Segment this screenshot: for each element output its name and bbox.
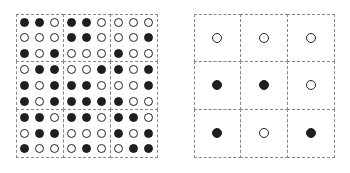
empty-circle-icon [67, 49, 76, 58]
filled-circle-icon [82, 113, 91, 122]
empty-circle-icon [306, 33, 316, 43]
filled-circle-icon [20, 81, 29, 90]
grid-block [110, 61, 158, 110]
filled-circle-icon [35, 113, 44, 122]
empty-circle-icon [129, 33, 138, 42]
filled-circle-icon [144, 65, 153, 74]
filled-circle-icon [97, 65, 106, 74]
filled-circle-icon [212, 80, 222, 90]
empty-circle-icon [129, 97, 138, 106]
filled-circle-icon [82, 144, 91, 153]
empty-circle-icon [20, 129, 29, 138]
empty-circle-icon [114, 144, 123, 153]
grid-block [16, 109, 64, 158]
empty-circle-icon [97, 49, 106, 58]
filled-circle-icon [67, 33, 76, 42]
filled-circle-icon [20, 144, 29, 153]
empty-circle-icon [67, 144, 76, 153]
filled-circle-icon [20, 113, 29, 122]
empty-circle-icon [20, 65, 29, 74]
empty-circle-icon [50, 18, 59, 27]
empty-circle-icon [50, 113, 59, 122]
filled-circle-icon [50, 81, 59, 90]
filled-circle-icon [50, 129, 59, 138]
grid-block [287, 109, 335, 158]
filled-circle-icon [114, 97, 123, 106]
filled-circle-icon [20, 18, 29, 27]
empty-circle-icon [306, 80, 316, 90]
empty-circle-icon [144, 49, 153, 58]
empty-circle-icon [114, 81, 123, 90]
grid-block [240, 109, 288, 158]
grid-block [110, 109, 158, 158]
filled-circle-icon [82, 18, 91, 27]
empty-circle-icon [67, 129, 76, 138]
grid-block [287, 61, 335, 110]
filled-circle-icon [20, 97, 29, 106]
filled-circle-icon [97, 97, 106, 106]
grid-block [63, 61, 111, 110]
empty-circle-icon [129, 129, 138, 138]
empty-circle-icon [50, 144, 59, 153]
filled-circle-icon [50, 65, 59, 74]
empty-circle-icon [129, 65, 138, 74]
filled-circle-icon [67, 18, 76, 27]
empty-circle-icon [129, 81, 138, 90]
filled-circle-icon [67, 113, 76, 122]
filled-circle-icon [144, 33, 153, 42]
empty-circle-icon [97, 113, 106, 122]
grid-block [194, 61, 242, 110]
filled-circle-icon [144, 144, 153, 153]
grid-block [240, 61, 288, 110]
empty-circle-icon [97, 18, 106, 27]
grid-block [194, 14, 242, 63]
grid-block [240, 14, 288, 63]
filled-circle-icon [306, 128, 316, 138]
empty-circle-icon [212, 33, 222, 43]
grid-block [287, 14, 335, 63]
filled-circle-icon [82, 81, 91, 90]
empty-circle-icon [97, 144, 106, 153]
empty-circle-icon [35, 33, 44, 42]
empty-circle-icon [129, 49, 138, 58]
empty-circle-icon [82, 129, 91, 138]
empty-circle-icon [20, 33, 29, 42]
empty-circle-icon [82, 49, 91, 58]
right-dot-grid [194, 14, 334, 157]
filled-circle-icon [114, 49, 123, 58]
filled-circle-icon [212, 128, 222, 138]
filled-circle-icon [114, 129, 123, 138]
empty-circle-icon [259, 128, 269, 138]
empty-circle-icon [97, 81, 106, 90]
grid-block [194, 109, 242, 158]
filled-circle-icon [144, 81, 153, 90]
empty-circle-icon [35, 81, 44, 90]
filled-circle-icon [129, 144, 138, 153]
empty-circle-icon [35, 49, 44, 58]
filled-circle-icon [67, 81, 76, 90]
filled-circle-icon [144, 129, 153, 138]
empty-circle-icon [82, 65, 91, 74]
empty-circle-icon [144, 113, 153, 122]
left-dot-grid [16, 14, 157, 157]
empty-circle-icon [97, 129, 106, 138]
filled-circle-icon [259, 80, 269, 90]
grid-block [63, 109, 111, 158]
filled-circle-icon [20, 49, 29, 58]
grid-block [110, 14, 158, 63]
empty-circle-icon [144, 18, 153, 27]
empty-circle-icon [129, 18, 138, 27]
filled-circle-icon [35, 18, 44, 27]
empty-circle-icon [114, 18, 123, 27]
filled-circle-icon [35, 65, 44, 74]
empty-circle-icon [144, 97, 153, 106]
filled-circle-icon [129, 113, 138, 122]
empty-circle-icon [67, 65, 76, 74]
filled-circle-icon [82, 33, 91, 42]
filled-circle-icon [35, 129, 44, 138]
filled-circle-icon [50, 97, 59, 106]
grid-block [16, 14, 64, 63]
filled-circle-icon [67, 97, 76, 106]
filled-circle-icon [114, 113, 123, 122]
filled-circle-icon [50, 49, 59, 58]
